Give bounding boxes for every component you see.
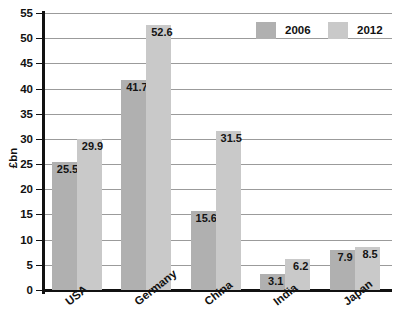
bar-usa-2012 (77, 139, 102, 290)
legend-swatch-2012 (328, 22, 348, 39)
gridline (45, 114, 392, 115)
y-axis-tick-label: 35 (5, 108, 33, 120)
y-axis-tick-label: 20 (5, 183, 33, 195)
bar-china-2012 (216, 131, 241, 290)
legend-entry-2006[interactable]: 2006 (256, 21, 311, 39)
bar-value-label: 31.5 (217, 133, 246, 144)
bar-usa-2006 (52, 162, 77, 290)
gridline (45, 63, 392, 64)
bar-value-label: 8.5 (356, 249, 385, 260)
y-axis-tick-label: 10 (5, 234, 33, 246)
y-axis-tick-label: 25 (5, 158, 33, 170)
gridline (45, 89, 392, 90)
y-axis-tick-label: 0 (5, 284, 33, 296)
bar-germany-2012 (146, 25, 171, 290)
bar-germany-2006 (121, 80, 146, 290)
y-axis-tick-label: 40 (5, 83, 33, 95)
gridline (45, 13, 392, 14)
legend-label-2012: 2012 (357, 24, 383, 36)
y-axis-tick (36, 189, 42, 190)
y-axis-tick (36, 38, 42, 39)
y-axis-tick (36, 114, 42, 115)
y-axis-tick-label: 55 (5, 7, 33, 19)
plot-area: 25.529.941.752.615.631.53.16.27.98.5 (45, 13, 392, 290)
y-axis-tick (36, 214, 42, 215)
legend-label-2006: 2006 (285, 24, 311, 36)
y-axis-tick-label: 50 (5, 32, 33, 44)
bar-value-label: 52.6 (147, 27, 176, 38)
y-axis-tick-label: 15 (5, 208, 33, 220)
y-axis-tick (36, 13, 42, 14)
y-axis-tick-label: 5 (5, 259, 33, 271)
y-axis-tick (36, 164, 42, 165)
y-axis-tick-label: 30 (5, 133, 33, 145)
y-axis-tick (36, 240, 42, 241)
y-axis-tick (36, 89, 42, 90)
y-axis-tick-label: 45 (5, 57, 33, 69)
y-axis-tick (36, 265, 42, 266)
y-axis-tick (36, 290, 42, 291)
legend-entry-2012[interactable]: 2012 (328, 21, 383, 39)
bar-chart: £bn 0510152025303540455055 25.529.941.75… (0, 0, 402, 336)
bar-value-label: 29.9 (78, 141, 107, 152)
y-axis-tick (36, 139, 42, 140)
legend-swatch-2006 (256, 22, 276, 39)
y-axis-tick (36, 63, 42, 64)
bar-value-label: 6.2 (286, 261, 315, 272)
